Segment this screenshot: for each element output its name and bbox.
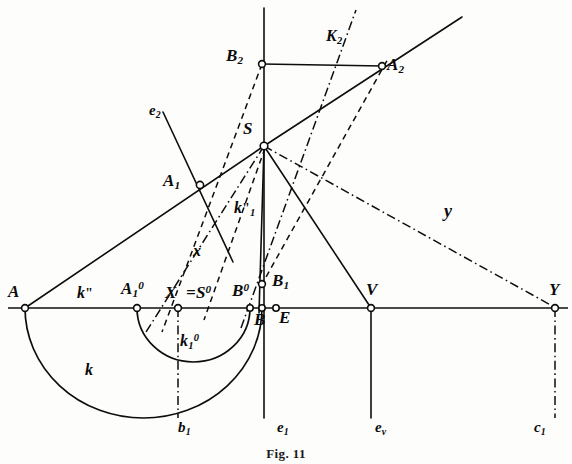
label-point-A1: A1 [163, 172, 180, 191]
label-point-A1-zero: A10 [121, 280, 144, 300]
point-A [22, 305, 29, 312]
label-point-B-zero: B0 [232, 282, 249, 299]
point-A2 [379, 63, 386, 70]
point-B-zero [247, 305, 253, 311]
point-Y [552, 305, 559, 312]
arc-k [25, 308, 262, 418]
label-point-A2: A2 [387, 56, 404, 75]
label-line-e1: e1 [277, 420, 289, 437]
point-X [175, 305, 182, 312]
label-point-B2: B2 [226, 47, 243, 66]
label-point-S: S [243, 120, 253, 137]
label-s-zero-equals: =S0 [186, 284, 211, 301]
point-A1 [196, 181, 203, 188]
line-b2-to-a2 [262, 64, 383, 66]
label-curve-K2: K2 [326, 28, 342, 47]
point-V [368, 305, 375, 312]
label-curve-k1-zero: k10 [180, 333, 199, 352]
line-y [264, 146, 556, 308]
label-curve-k1-double-prime: k"1 [234, 200, 255, 219]
dashdot-lines [146, 10, 556, 418]
label-point-E: E [279, 309, 291, 326]
label-line-e2: e2 [149, 103, 161, 120]
label-line-c1: c1 [534, 420, 546, 437]
geometry-figure: A A10 X =S0 B0 B E V Y B1 A1 S B2 A2 k k… [0, 0, 572, 464]
label-line-y: y [444, 202, 452, 220]
label-point-B: B [254, 311, 266, 328]
arcs [25, 308, 262, 418]
label-line-b1: b1 [178, 420, 191, 437]
label-point-X: X [165, 284, 177, 301]
figure-caption: Fig. 11 [0, 446, 572, 462]
label-line-x: x [193, 243, 201, 259]
label-point-A: A [8, 283, 20, 300]
label-curve-k: k [85, 362, 93, 378]
figure-canvas [0, 0, 572, 464]
label-point-V: V [366, 281, 378, 298]
label-line-ev: ev [375, 420, 386, 437]
point-B1 [259, 281, 266, 288]
label-point-B1: B1 [272, 272, 289, 291]
solid-lines [8, 8, 568, 418]
point-A1-zero [134, 305, 141, 312]
point-S [260, 142, 268, 150]
line-a-to-s [25, 146, 264, 308]
point-B2 [259, 61, 266, 68]
line-s-to-a2-ray [264, 17, 462, 146]
label-curve-k-double-prime: k" [77, 285, 93, 301]
label-point-Y: Y [549, 281, 560, 298]
